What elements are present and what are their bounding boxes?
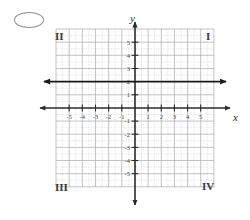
x-tick-label: 1 [146,113,149,120]
y-tick-label: -1 [125,117,130,124]
x-tick-label: 2 [160,113,163,120]
graph-canvas: -5 -4 -3 -2 -1 1 2 3 4 5 5 4 3 2 1 -1 -2… [0,0,250,220]
y-tick-label: 1 [127,91,130,98]
x-tick-label: 3 [173,113,176,120]
x-tick-label: -4 [80,113,86,120]
quadrant-2-label: II [55,31,64,42]
quadrant-4-label: IV [202,181,214,192]
y-tick-label: -2 [125,131,130,138]
y-tick-label: -3 [125,144,130,151]
quadrant-1-label: I [206,31,210,42]
y-axis-label: y [130,13,135,24]
x-tick-label: -5 [66,113,71,120]
y-tick-label: -4 [125,157,131,164]
x-tick-label: -3 [93,113,98,120]
y-tick-label: -5 [125,170,130,177]
x-axis-label: x [233,112,238,123]
y-tick-label: 5 [127,39,130,46]
quadrant-3-label: III [55,182,68,193]
x-tick-label: 5 [199,113,202,120]
x-tick-label: -2 [106,113,111,120]
y-tick-label: 3 [127,65,130,72]
